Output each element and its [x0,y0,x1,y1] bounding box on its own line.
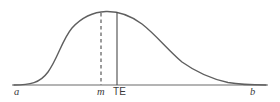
axis-label-te: TE [113,87,126,97]
axis-label-b: b [250,87,255,98]
distribution-figure: a m TE b [0,0,280,102]
density-curve [14,11,266,85]
axis-label-a: a [14,87,19,98]
distribution-plot [0,0,280,102]
axis-label-m: m [97,87,105,98]
